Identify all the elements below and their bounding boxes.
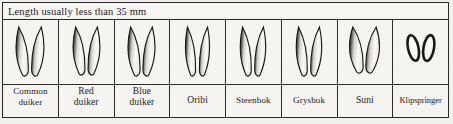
species-column: Blue duiker	[115, 20, 171, 117]
species-label-cell: Klipspringer	[393, 84, 448, 117]
chart-header-band: Length usually less than 35 mm	[3, 3, 448, 20]
spoor-illustration	[282, 20, 337, 84]
species-label: Suni	[356, 95, 374, 106]
length-note-text: Length usually less than 35 mm	[8, 4, 146, 19]
species-label: Common duiker	[13, 86, 47, 108]
spoor-illustration	[393, 20, 448, 84]
spoor-illustration	[170, 20, 225, 84]
species-label: Blue duiker	[129, 86, 154, 108]
species-label: Grysbok	[293, 95, 325, 106]
spoor-illustration	[3, 20, 58, 84]
spoor-chart-page: Length usually less than 35 mm	[0, 0, 453, 124]
species-label-cell: Common duiker	[3, 84, 58, 117]
species-label: Steenbok	[236, 95, 271, 106]
spoor-illustration	[338, 20, 393, 84]
species-column: Red duiker	[59, 20, 115, 117]
spoor-illustration	[226, 20, 281, 84]
species-label: Oribi	[187, 95, 208, 106]
species-label-cell: Grysbok	[282, 84, 337, 117]
species-label-cell: Oribi	[170, 84, 225, 117]
spoor-comparison-table: Length usually less than 35 mm	[2, 2, 449, 118]
spoor-illustration	[59, 20, 114, 84]
species-label-cell: Red duiker	[59, 84, 114, 117]
species-column: Steenbok	[226, 20, 282, 117]
species-column: Common duiker	[3, 20, 59, 117]
species-column: Grysbok	[282, 20, 338, 117]
species-label: Klipspringer	[400, 95, 442, 106]
species-label: Red duiker	[74, 86, 99, 108]
species-column: Klipspringer	[393, 20, 448, 117]
species-column: Suni	[338, 20, 394, 117]
species-label-cell: Steenbok	[226, 84, 281, 117]
spoor-illustration	[115, 20, 170, 84]
species-column-row: Common duiker	[3, 20, 448, 117]
species-column: Oribi	[170, 20, 226, 117]
species-label-cell: Suni	[338, 84, 393, 117]
species-label-cell: Blue duiker	[115, 84, 170, 117]
